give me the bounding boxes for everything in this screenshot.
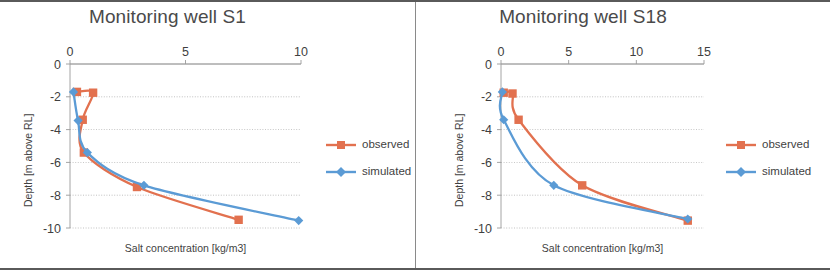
data-point-marker (294, 216, 303, 225)
legend-item-observed[interactable]: observed (726, 137, 811, 153)
y-tick-label: -8 (50, 189, 61, 203)
x-tick-label: 15 (697, 45, 711, 59)
y-tick-label: -4 (481, 123, 492, 137)
data-point-marker (549, 181, 558, 190)
y-tick-label: -6 (481, 156, 492, 170)
plot-area-s1: 05100-2-4-6-8-10 (0, 2, 416, 270)
y-tick-label: -10 (43, 222, 61, 236)
x-tick-label: 10 (629, 45, 643, 59)
legend-item-observed[interactable]: observed (326, 137, 411, 153)
legend-item-simulated[interactable]: simulated (726, 164, 811, 180)
x-tick-label: 5 (182, 45, 189, 59)
legend-item-simulated[interactable]: simulated (326, 164, 411, 180)
y-axis-title-s1: Depth [m above RL] (22, 114, 34, 207)
x-axis-title-s1: Salt concentration [kg/m3] (70, 242, 301, 254)
legend-marker-simulated-icon (726, 166, 756, 178)
legend-marker-observed-icon (726, 139, 756, 151)
legend-marker-observed-icon (326, 139, 356, 151)
y-tick-label: -2 (50, 90, 61, 104)
data-point-marker (89, 89, 97, 97)
data-point-marker (578, 181, 586, 189)
y-tick-label: 0 (54, 58, 61, 72)
x-tick-label: 10 (294, 45, 308, 59)
y-axis-title-s18: Depth [m above RL] (453, 114, 465, 207)
chart-panel-s1: Monitoring well S1 05100-2-4-6-8-10 Dept… (0, 2, 416, 268)
y-tick-label: -10 (474, 222, 492, 236)
legend-label-observed: observed (362, 139, 409, 151)
figure-container: Monitoring well S1 05100-2-4-6-8-10 Dept… (0, 0, 830, 270)
x-axis-title-s18: Salt concentration [kg/m3] (501, 242, 704, 254)
series-simulated (498, 87, 693, 223)
data-point-marker (234, 216, 242, 224)
series-observed (500, 89, 692, 225)
x-tick-label: 0 (67, 45, 74, 59)
legend-s18: observed simulated (726, 137, 811, 191)
chart-panel-s18: Monitoring well S18 0510150-2-4-6-8-10 D… (416, 2, 830, 268)
legend-label-simulated: simulated (762, 166, 811, 178)
y-tick-label: -4 (50, 123, 61, 137)
data-point-marker (514, 116, 522, 124)
y-tick-label: -8 (481, 189, 492, 203)
legend-label-simulated: simulated (362, 166, 411, 178)
x-tick-label: 5 (565, 45, 572, 59)
legend-label-observed: observed (762, 139, 809, 151)
x-tick-label: 0 (498, 45, 505, 59)
plot-area-s18: 0510150-2-4-6-8-10 (416, 2, 830, 270)
y-tick-label: 0 (485, 58, 492, 72)
legend-marker-simulated-icon (326, 166, 356, 178)
data-point-marker (499, 115, 508, 124)
y-tick-label: -6 (50, 156, 61, 170)
data-point-marker (508, 89, 516, 97)
legend-s1: observed simulated (326, 137, 411, 191)
y-tick-label: -2 (481, 90, 492, 104)
